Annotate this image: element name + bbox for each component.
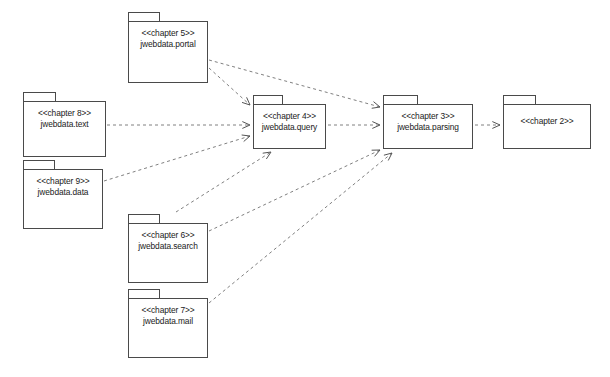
package-body-chapter9: <<chapter 9>>jwebdata.data: [23, 169, 103, 229]
package-stereotype-chapter3: <<chapter 3>>: [384, 111, 472, 122]
package-stereotype-chapter5: <<chapter 5>>: [129, 28, 207, 39]
package-stereotype-chapter4: <<chapter 4>>: [254, 111, 325, 122]
dep-ch5-ch3-arrowhead-icon: [372, 102, 380, 108]
dep-ch4-ch3-arrowhead-icon: [373, 122, 380, 129]
dep-ch7-ch3-line: [209, 153, 392, 303]
dep-ch9-ch4-arrowhead-icon: [242, 135, 250, 141]
dep-ch6-ch4[interactable]: [176, 152, 271, 212]
dep-ch5-ch4-arrowhead-icon: [242, 98, 250, 105]
package-body-chapter3: <<chapter 3>>jwebdata.parsing: [383, 104, 473, 149]
package-body-chapter7: <<chapter 7>>jwebdata.mail: [128, 298, 208, 358]
package-body-chapter4: <<chapter 4>>jwebdata.query: [253, 104, 326, 149]
dep-ch3-ch2[interactable]: [475, 122, 500, 129]
dep-ch5-ch4[interactable]: [209, 68, 250, 105]
package-name-chapter6: jwebdata.search: [129, 241, 207, 252]
package-chapter6[interactable]: <<chapter 6>>jwebdata.search: [128, 214, 208, 283]
package-body-chapter6: <<chapter 6>>jwebdata.search: [128, 223, 208, 283]
package-name-chapter8: jwebdata.text: [24, 119, 105, 130]
package-body-chapter2: <<chapter 2>>: [503, 104, 591, 149]
dep-ch7-ch3-arrowhead-icon: [384, 153, 392, 160]
package-stereotype-chapter9: <<chapter 9>>: [24, 176, 102, 187]
dep-ch9-ch4-line: [104, 136, 250, 181]
package-body-chapter5: <<chapter 5>>jwebdata.portal: [128, 21, 208, 83]
package-stereotype-chapter8: <<chapter 8>>: [24, 108, 105, 119]
dep-ch7-ch3[interactable]: [209, 153, 392, 303]
dep-ch8-ch4-arrowhead-icon: [243, 122, 250, 129]
dep-ch6-ch3[interactable]: [209, 150, 380, 231]
package-name-chapter9: jwebdata.data: [24, 187, 102, 198]
package-chapter3[interactable]: <<chapter 3>>jwebdata.parsing: [383, 95, 473, 149]
package-name-chapter5: jwebdata.portal: [129, 39, 207, 50]
package-chapter8[interactable]: <<chapter 8>>jwebdata.text: [23, 92, 106, 157]
dep-ch6-ch3-arrowhead-icon: [372, 150, 380, 156]
package-stereotype-chapter2: <<chapter 2>>: [504, 116, 590, 127]
package-chapter4[interactable]: <<chapter 4>>jwebdata.query: [253, 95, 326, 149]
package-stereotype-chapter7: <<chapter 7>>: [129, 305, 207, 316]
package-chapter2[interactable]: <<chapter 2>>: [503, 95, 591, 149]
uml-package-diagram-canvas: <<chapter 5>>jwebdata.portal<<chapter 8>…: [0, 0, 610, 377]
package-chapter5[interactable]: <<chapter 5>>jwebdata.portal: [128, 12, 208, 83]
dep-ch9-ch4[interactable]: [104, 135, 250, 181]
dep-ch8-ch4[interactable]: [107, 122, 250, 129]
package-body-chapter8: <<chapter 8>>jwebdata.text: [23, 101, 106, 157]
dep-ch5-ch4-line: [209, 68, 250, 105]
package-chapter9[interactable]: <<chapter 9>>jwebdata.data: [23, 160, 103, 229]
package-name-chapter3: jwebdata.parsing: [384, 122, 472, 133]
dep-ch6-ch4-line: [176, 152, 271, 212]
dep-ch3-ch2-arrowhead-icon: [493, 122, 500, 129]
dep-ch6-ch3-line: [209, 150, 380, 231]
dep-ch4-ch3[interactable]: [328, 122, 380, 129]
package-name-chapter4: jwebdata.query: [254, 122, 325, 133]
dep-ch6-ch4-arrowhead-icon: [263, 152, 271, 159]
package-stereotype-chapter6: <<chapter 6>>: [129, 230, 207, 241]
package-name-chapter7: jwebdata.mail: [129, 316, 207, 327]
package-chapter7[interactable]: <<chapter 7>>jwebdata.mail: [128, 289, 208, 358]
